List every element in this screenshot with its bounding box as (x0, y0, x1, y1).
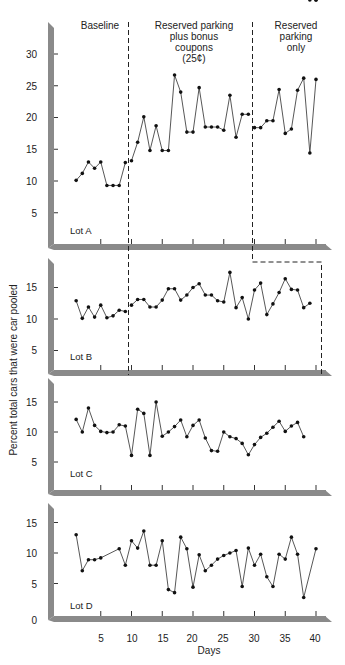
data-point (265, 119, 269, 123)
data-point (265, 313, 269, 317)
data-point (290, 127, 294, 131)
data-point (253, 288, 257, 292)
data-point (185, 435, 189, 439)
data-point (302, 76, 306, 80)
svg-text:15: 15 (26, 282, 38, 293)
data-point (283, 277, 287, 281)
series-lot-a (130, 73, 250, 162)
data-point (290, 535, 294, 539)
data-point (81, 430, 85, 434)
data-point (185, 547, 189, 551)
data-point (283, 430, 287, 434)
data-point (197, 418, 201, 422)
data-point (234, 306, 238, 310)
data-point (247, 113, 251, 117)
data-point (154, 124, 158, 128)
data-point (216, 125, 220, 129)
data-point (314, 78, 318, 82)
data-point (148, 454, 152, 458)
svg-text:10: 10 (26, 314, 38, 325)
data-point (185, 130, 189, 134)
data-point (154, 305, 158, 309)
data-point (308, 0, 312, 2)
phase-label-coupons: (25¢) (182, 53, 205, 64)
data-point (93, 167, 97, 171)
data-point (87, 305, 91, 309)
data-point (228, 551, 232, 555)
data-point (283, 132, 287, 136)
data-point (154, 400, 158, 404)
data-point (117, 308, 121, 312)
y-tick-labels-lot-a: 30 25 20 15 10 5 (26, 49, 38, 219)
series-lot-d (74, 529, 317, 599)
svg-text:15: 15 (26, 397, 38, 408)
data-point (222, 300, 226, 304)
data-point (228, 271, 232, 275)
data-point (296, 288, 300, 292)
data-point (204, 293, 208, 297)
data-point (191, 585, 195, 589)
svg-text:25: 25 (217, 633, 229, 644)
data-point (117, 184, 121, 188)
data-point (81, 317, 85, 321)
data-point (142, 115, 146, 119)
y-tick-labels-lot-d: 15 10 5 0 (26, 518, 38, 626)
data-point (160, 149, 164, 153)
data-point (197, 86, 201, 90)
data-point (93, 558, 97, 562)
data-point (111, 430, 115, 434)
data-point (99, 160, 103, 164)
data-point (247, 546, 251, 550)
data-point (124, 563, 128, 567)
data-point (210, 563, 214, 567)
data-point (253, 443, 257, 447)
phase-change-lines (129, 22, 322, 375)
data-point (259, 552, 263, 556)
data-point (204, 125, 208, 129)
data-point (314, 0, 318, 2)
data-point (210, 125, 214, 129)
data-point (302, 596, 306, 600)
data-point (81, 172, 85, 176)
data-point (240, 296, 244, 300)
data-point (87, 160, 91, 164)
series-lot-a (74, 160, 127, 187)
data-point (259, 281, 263, 285)
svg-text:10: 10 (26, 427, 38, 438)
data-point (216, 299, 220, 303)
data-point (240, 442, 244, 446)
data-point (148, 305, 152, 309)
svg-text:15: 15 (157, 633, 169, 644)
data-series (74, 0, 317, 599)
data-point (124, 161, 128, 165)
data-point (173, 425, 177, 429)
phase-label-baseline: Baseline (81, 20, 120, 31)
data-point (160, 539, 164, 543)
data-point (74, 179, 78, 183)
data-point (247, 317, 251, 321)
data-point (105, 316, 109, 320)
phase-label-coupons: Reserved parking (155, 20, 233, 31)
svg-text:30: 30 (248, 633, 260, 644)
phase-label-coupons: coupons (175, 42, 213, 53)
data-point (302, 306, 306, 310)
data-point (308, 301, 312, 305)
lot-label-d: Lot D (70, 600, 93, 611)
data-point (216, 557, 220, 561)
svg-text:20: 20 (186, 633, 198, 644)
data-point (197, 282, 201, 286)
data-point (265, 431, 269, 435)
data-point (283, 557, 287, 561)
multiple-baseline-chart: Baseline Reserved parking plus bonus cou… (0, 0, 345, 665)
data-point (179, 418, 183, 422)
data-point (271, 585, 275, 589)
data-point (117, 423, 121, 427)
data-point (81, 569, 85, 573)
data-point (204, 569, 208, 573)
data-point (277, 552, 281, 556)
data-point (247, 453, 251, 457)
data-point (167, 430, 171, 434)
data-point (117, 547, 121, 551)
data-point (234, 549, 238, 553)
data-point (271, 425, 275, 429)
